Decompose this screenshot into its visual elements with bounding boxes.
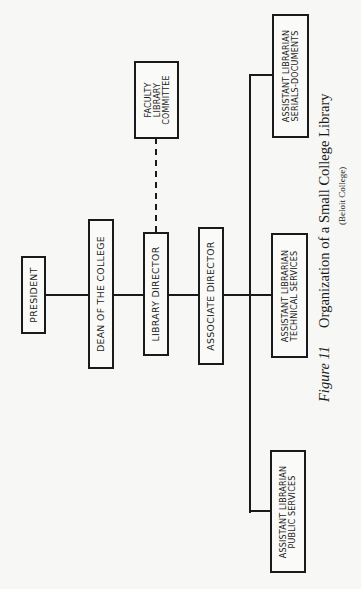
connector-bus-serials [249, 74, 272, 76]
connector-associate-director-bus [224, 294, 251, 296]
node-asst-serials-label: ASSISTANT LIBRARIAN SERIALS-DOCUMENTS [282, 30, 300, 122]
connector-dean-library-director [113, 294, 143, 296]
connector-bus-technical [249, 294, 271, 296]
node-dean: DEAN OF THE COLLEGE [88, 219, 114, 369]
node-library-director: LIBRARY DIRECTOR [143, 232, 169, 356]
figure-subtitle: (Beloit College) [337, 167, 347, 225]
node-asst-serials-documents: ASSISTANT LIBRARIAN SERIALS-DOCUMENTS [272, 14, 309, 138]
connector-president-dean [45, 294, 88, 296]
figure-title: Organization of a Small College Library [316, 93, 332, 328]
node-associate-director-label: ASSOCIATE DIRECTOR [206, 241, 217, 350]
node-asst-public-label: ASSISTANT LIBRARIAN PUBLIC SERVICES [279, 465, 297, 557]
connector-library-director-associate-director [168, 294, 198, 296]
node-faculty-committee-label: FACULTY LIBRARY COMMITTEE [143, 75, 170, 125]
node-asst-technical-services: ASSISTANT LIBRARIAN TECHNICAL SERVICES [271, 233, 308, 358]
node-president-label: PRESIDENT [28, 267, 39, 322]
figure-caption: Figure 11 Organization of a Small Colleg… [316, 93, 333, 402]
caption-spacer [316, 332, 332, 343]
node-library-director-label: LIBRARY DIRECTOR [151, 247, 162, 342]
node-president: PRESIDENT [21, 256, 46, 334]
figure-label: Figure 11 [316, 346, 332, 402]
node-dean-label: DEAN OF THE COLLEGE [96, 236, 107, 352]
node-asst-technical-label: ASSISTANT LIBRARIAN TECHNICAL SERVICES [281, 249, 299, 341]
node-faculty-committee: FACULTY LIBRARY COMMITTEE [134, 61, 179, 139]
connector-dashed-faculty-committee [155, 138, 157, 232]
node-associate-director: ASSOCIATE DIRECTOR [198, 227, 224, 365]
connector-bus-public [249, 510, 270, 512]
node-asst-public-services: ASSISTANT LIBRARIAN PUBLIC SERVICES [270, 450, 306, 573]
